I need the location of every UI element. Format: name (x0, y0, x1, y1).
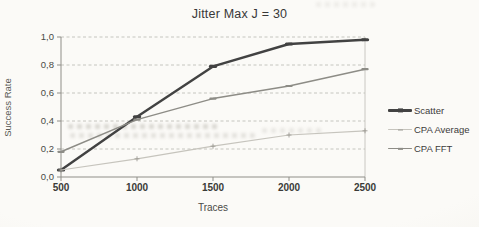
x-tick-label: 1000 (126, 182, 149, 193)
legend-label: CPA FFT (414, 143, 452, 154)
y-tick-label: 0,2 (41, 143, 54, 154)
x-tick-label: 2500 (354, 182, 377, 193)
cpa-average-line-swatch (388, 129, 412, 130)
y-tick-label: 1,0 (41, 31, 54, 42)
x-tick-label: 2000 (278, 182, 301, 193)
legend-label: CPA Average (414, 124, 470, 135)
legend-item-scatter: Scatter (388, 101, 476, 120)
x-tick-label: 500 (53, 182, 70, 193)
legend: Scatter CPA Average CPA FFT (388, 101, 476, 158)
y-tick-label: 0,8 (41, 59, 54, 70)
y-tick-label: 0,4 (41, 115, 54, 126)
series-line-scatter (61, 40, 365, 170)
chart-figure: Jitter Max J = 30 Success Rate Traces 1,… (0, 0, 479, 227)
legend-item-cpa-fft: CPA FFT (388, 139, 476, 158)
legend-label: Scatter (414, 105, 444, 116)
legend-item-cpa-average: CPA Average (388, 120, 476, 139)
y-tick-label: 0,6 (41, 87, 54, 98)
x-tick-label: 1500 (202, 182, 225, 193)
y-tick-label: 0,0 (41, 171, 54, 182)
cpa-fft-line-swatch (388, 148, 412, 150)
scatter-line-swatch (388, 109, 412, 111)
